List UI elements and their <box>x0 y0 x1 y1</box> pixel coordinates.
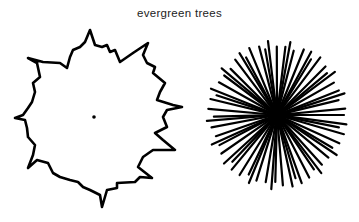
radiating-branches-figure <box>207 41 347 189</box>
crown-outline-figure <box>15 30 182 207</box>
trunk-center-dot <box>92 115 96 119</box>
evergreen-illustration <box>0 0 359 222</box>
spiky-crown-outline <box>15 30 182 207</box>
branch-hub <box>270 108 284 122</box>
